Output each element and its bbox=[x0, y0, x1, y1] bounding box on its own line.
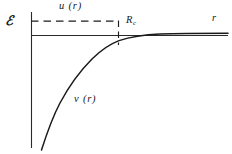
u-curve-label: u (r) bbox=[59, 1, 82, 12]
v-curve bbox=[42, 33, 229, 150]
cutoff-radius-symbol: R bbox=[126, 14, 132, 25]
cutoff-radius-label: Rc bbox=[126, 15, 136, 26]
plot-canvas bbox=[0, 0, 232, 154]
potential-energy-figure: ℰ u (r) Rc r v (r) bbox=[0, 0, 232, 154]
cutoff-radius-subscript: c bbox=[133, 19, 136, 27]
v-curve-label: v (r) bbox=[74, 94, 96, 105]
y-axis-label: ℰ bbox=[5, 14, 13, 27]
x-axis-label: r bbox=[212, 13, 216, 24]
